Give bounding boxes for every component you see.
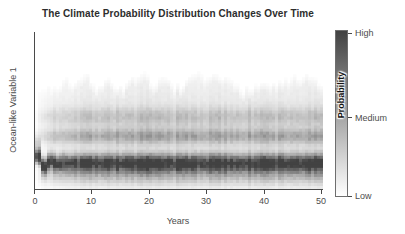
x-axis-tick-label: 10 bbox=[86, 196, 96, 206]
colorbar-tick-low bbox=[348, 196, 352, 197]
x-axis-tick bbox=[206, 190, 207, 194]
x-axis-tick-label: 30 bbox=[201, 196, 211, 206]
x-axis-tick-label: 40 bbox=[259, 196, 269, 206]
x-axis-tick bbox=[321, 190, 322, 194]
x-axis-tick-label: 20 bbox=[144, 196, 154, 206]
x-axis-tick-label: 0 bbox=[32, 196, 37, 206]
colorbar-tick-medium bbox=[348, 117, 352, 118]
x-axis-label: Years bbox=[34, 216, 322, 226]
x-axis-tick bbox=[149, 190, 150, 194]
x-axis-tick bbox=[91, 190, 92, 194]
x-axis-tick bbox=[34, 190, 35, 194]
colorbar-label: Probability bbox=[336, 72, 346, 119]
climate-distribution-figure: The Climate Probability Distribution Cha… bbox=[0, 0, 405, 234]
x-axis-tick-label: 50 bbox=[316, 196, 326, 206]
colorbar-tick-label-high: High bbox=[355, 28, 374, 38]
colorbar-tick-label-medium: Medium bbox=[355, 113, 387, 123]
colorbar-tick-label-low: Low bbox=[355, 191, 372, 201]
plot-area bbox=[34, 32, 323, 190]
y-axis-label: Ocean-like Variable 1 bbox=[8, 67, 18, 152]
heatmap-canvas bbox=[35, 32, 323, 189]
x-axis-tick bbox=[264, 190, 265, 194]
chart-title: The Climate Probability Distribution Cha… bbox=[34, 8, 322, 19]
colorbar-tick-high bbox=[348, 33, 352, 34]
